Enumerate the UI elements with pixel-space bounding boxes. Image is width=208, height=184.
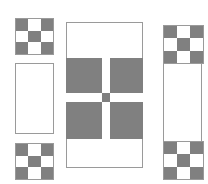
checker-cell xyxy=(41,167,53,179)
checker-cell xyxy=(190,26,203,38)
strip-block-right xyxy=(163,25,202,178)
checker-cell xyxy=(177,142,190,154)
checker-cell xyxy=(164,26,177,38)
cross-cell xyxy=(102,93,110,102)
cross-cell xyxy=(66,93,102,102)
checker-cell xyxy=(28,42,40,54)
checker-cell xyxy=(16,167,28,179)
cross-inner-grid xyxy=(66,58,143,139)
checker-cell xyxy=(16,144,28,156)
cross-cell xyxy=(110,93,143,102)
checker-cell xyxy=(190,142,203,154)
checker-cell xyxy=(28,19,40,31)
cross-cell xyxy=(102,58,110,93)
checker-cell xyxy=(164,38,177,50)
checker-cell xyxy=(41,156,53,168)
checkerboard-strip-top xyxy=(163,25,204,64)
cross-cell xyxy=(110,102,143,139)
checker-cell xyxy=(16,156,28,168)
cross-block-center xyxy=(66,22,143,168)
checker-cell xyxy=(16,31,28,43)
checker-cell xyxy=(177,154,190,166)
checker-cell xyxy=(190,167,203,179)
checker-cell xyxy=(164,167,177,179)
checker-cell xyxy=(177,51,190,63)
checker-cell xyxy=(16,19,28,31)
checker-cell xyxy=(28,31,40,43)
cross-cell xyxy=(66,58,102,93)
checker-cell xyxy=(41,31,53,43)
checker-cell xyxy=(190,154,203,166)
checker-cell xyxy=(41,42,53,54)
checker-cell xyxy=(164,51,177,63)
checker-cell xyxy=(177,26,190,38)
cross-cell xyxy=(102,102,110,139)
figure-canvas xyxy=(0,0,208,184)
checker-cell xyxy=(190,38,203,50)
checker-cell xyxy=(28,156,40,168)
checkerboard-strip-bottom xyxy=(163,141,204,180)
checker-cell xyxy=(28,167,40,179)
checker-cell xyxy=(16,42,28,54)
checker-cell xyxy=(28,144,40,156)
checker-cell xyxy=(164,154,177,166)
checker-cell xyxy=(177,38,190,50)
plain-block-left-middle xyxy=(15,63,54,134)
checker-cell xyxy=(177,167,190,179)
checker-cell xyxy=(164,142,177,154)
checkerboard-block-bottom-left xyxy=(15,143,54,180)
cross-cell xyxy=(66,102,102,139)
checker-cell xyxy=(41,19,53,31)
cross-cell xyxy=(110,58,143,93)
checkerboard-block-top-left xyxy=(15,18,54,55)
checker-cell xyxy=(190,51,203,63)
checker-cell xyxy=(41,144,53,156)
